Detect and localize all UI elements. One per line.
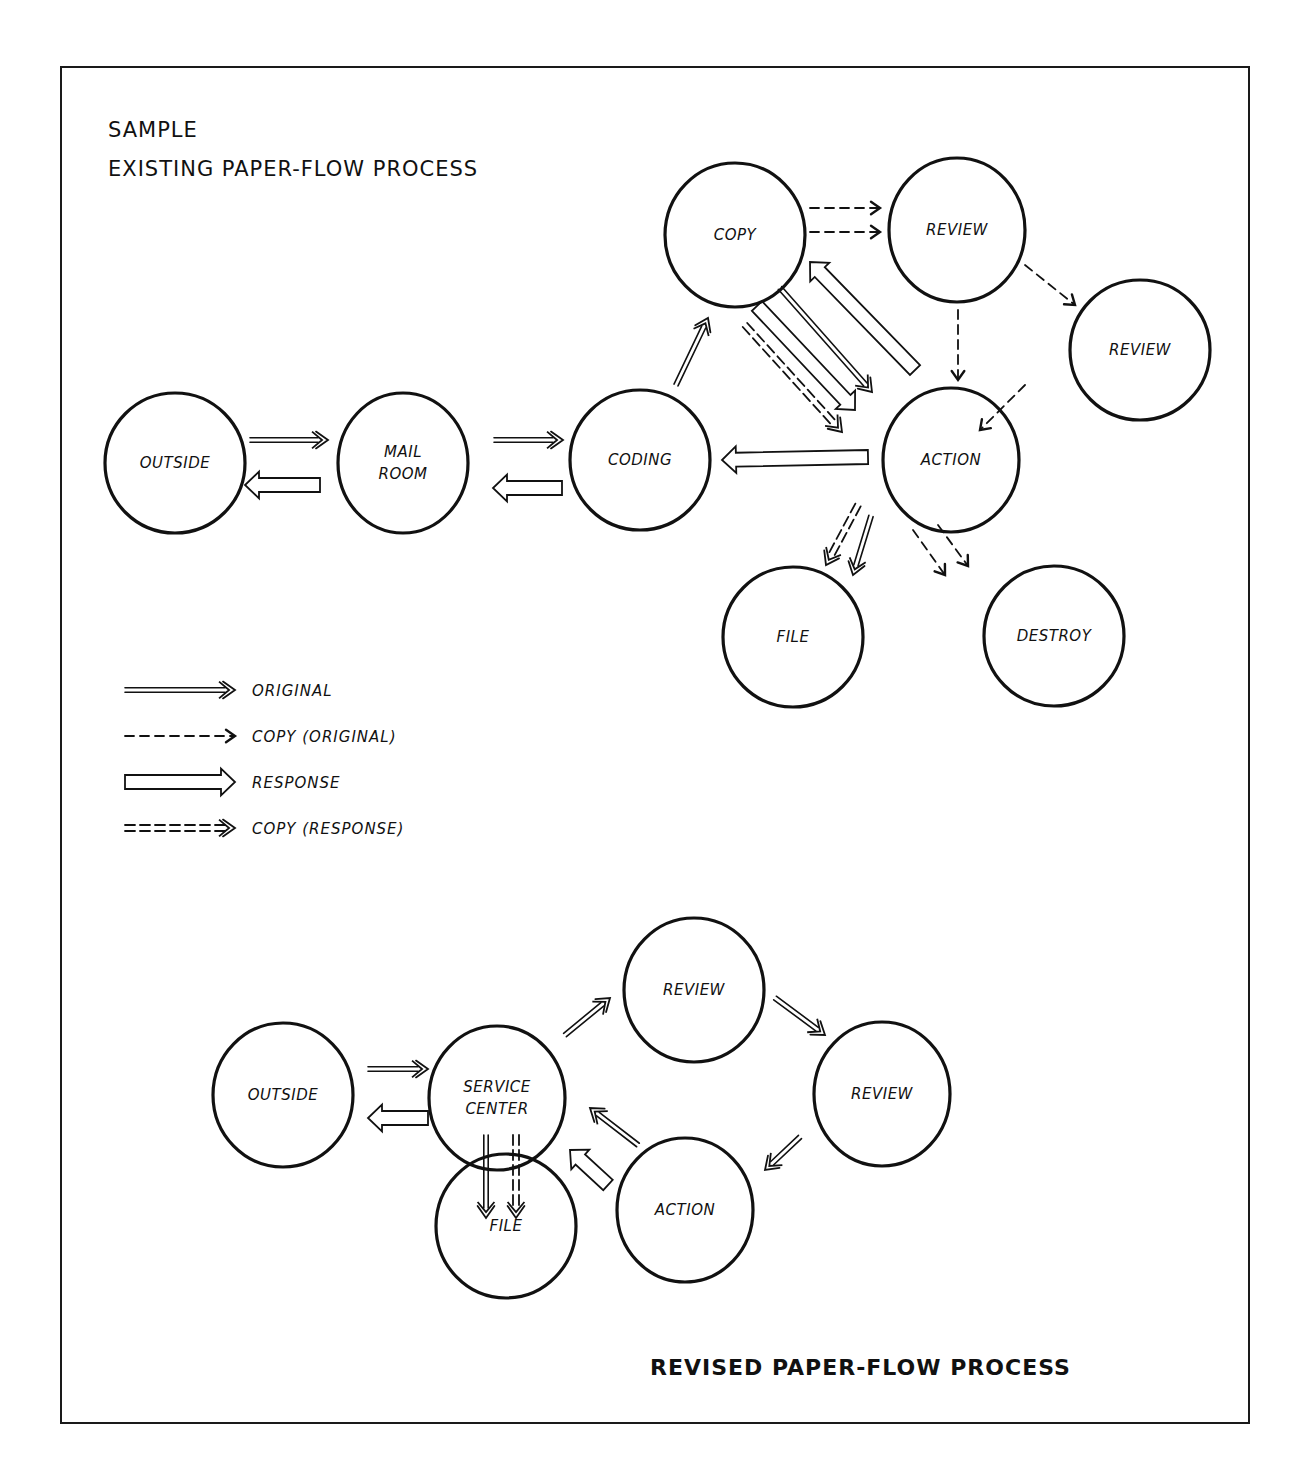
arrow-response — [493, 475, 562, 502]
legend-label: COPY (RESPONSE) — [252, 820, 404, 838]
existing-node-review1: REVIEW — [889, 158, 1025, 302]
legend-item-copy-response: COPY (RESPONSE) — [125, 820, 404, 838]
legend-label: COPY (ORIGINAL) — [252, 728, 397, 746]
node-label: SERVICE — [463, 1078, 531, 1096]
arrow-original — [774, 996, 825, 1035]
existing-node-copy: COPY — [665, 163, 805, 307]
node-label: ACTION — [654, 1201, 715, 1219]
node-label: ACTION — [920, 451, 981, 469]
node-label: REVIEW — [1109, 341, 1172, 359]
node-label: DESTROY — [1017, 627, 1093, 645]
existing-node-coding: CODING — [570, 390, 710, 530]
revised-node-service: SERVICECENTER — [429, 1026, 565, 1170]
node-label: OUTSIDE — [248, 1086, 318, 1104]
node-label: ROOM — [379, 465, 428, 483]
revised-node-action: ACTION — [617, 1138, 753, 1282]
arrow-copy-original — [125, 730, 235, 743]
node-label: FILE — [490, 1217, 523, 1235]
node-label: CENTER — [465, 1100, 528, 1118]
legend-item-copy-original: COPY (ORIGINAL) — [125, 728, 397, 746]
arrow-original — [250, 432, 328, 449]
arrow-original — [368, 1061, 428, 1078]
arrow-original — [478, 1135, 495, 1218]
revised-nodes: OUTSIDESERVICECENTERREVIEWREVIEWACTIONFI… — [213, 918, 950, 1298]
arrow-original — [125, 682, 235, 699]
revised-edges — [368, 996, 825, 1218]
existing-node-review2: REVIEW — [1070, 280, 1210, 420]
existing-node-file: FILE — [723, 567, 863, 707]
arrow-copy-original — [810, 226, 880, 239]
arrow-copy-response — [125, 820, 235, 837]
arrow-original — [674, 318, 710, 386]
arrow-original — [494, 432, 563, 449]
arrow-copy-response — [824, 504, 860, 565]
node-label: COPY — [714, 226, 758, 244]
legend-item-original: ORIGINAL — [125, 682, 333, 700]
arrow-original — [564, 998, 610, 1037]
legend-item-response: RESPONSE — [125, 769, 341, 796]
node-label: REVIEW — [926, 221, 989, 239]
existing-node-destroy: DESTROY — [984, 566, 1124, 706]
node-label: CODING — [608, 451, 672, 469]
arrow-original — [848, 515, 873, 575]
existing-node-action: ACTION — [883, 388, 1019, 532]
arrow-copy-original — [1025, 265, 1075, 305]
diagram-canvas: OUTSIDEMAILROOMCODINGCOPYREVIEWREVIEWACT… — [0, 0, 1304, 1477]
legend-label: RESPONSE — [252, 774, 341, 792]
revised-node-file: FILE — [436, 1154, 576, 1298]
arrow-copy-response — [508, 1135, 525, 1218]
arrow-original — [765, 1135, 802, 1170]
arrow-copy-original — [980, 385, 1025, 430]
legend: ORIGINALCOPY (ORIGINAL)RESPONSECOPY (RES… — [125, 682, 404, 838]
revised-node-outside: OUTSIDE — [213, 1023, 353, 1167]
arrow-response — [368, 1105, 428, 1132]
arrow-copy-original — [913, 530, 945, 575]
existing-nodes: OUTSIDEMAILROOMCODINGCOPYREVIEWREVIEWACT… — [105, 158, 1210, 707]
arrow-copy-original — [810, 202, 880, 215]
arrow-response — [125, 769, 235, 796]
node-label: REVIEW — [663, 981, 726, 999]
existing-node-mailroom: MAILROOM — [338, 393, 468, 533]
legend-label: ORIGINAL — [252, 682, 333, 700]
arrow-copy-original — [952, 310, 965, 380]
arrow-response — [810, 262, 920, 375]
existing-node-outside: OUTSIDE — [105, 393, 245, 533]
arrow-response — [722, 446, 868, 473]
node-label: FILE — [777, 628, 810, 646]
node-label: OUTSIDE — [140, 454, 210, 472]
arrow-response — [570, 1150, 613, 1190]
revised-node-review1: REVIEW — [624, 918, 764, 1062]
arrow-original — [590, 1108, 639, 1147]
arrow-response — [245, 472, 320, 499]
node-label: MAIL — [384, 443, 422, 461]
node-label: REVIEW — [851, 1085, 914, 1103]
revised-node-review2: REVIEW — [814, 1022, 950, 1166]
